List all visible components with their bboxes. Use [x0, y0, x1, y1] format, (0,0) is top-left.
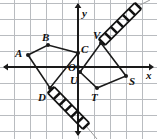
vertex-dot-a: [26, 53, 30, 57]
hatch-band-lower-left-tail: [86, 126, 97, 139]
coordinate-plane-figure: ABCDOUVSTxy: [0, 0, 157, 139]
label-d: D: [38, 92, 46, 103]
vertex-dot-c: [76, 51, 80, 55]
figure-canvas: [0, 0, 157, 139]
label-u: U: [70, 75, 78, 86]
x-axis-arrow-left: [3, 64, 8, 71]
label-y: y: [82, 8, 87, 19]
label-s: S: [129, 76, 135, 87]
label-b: B: [42, 32, 49, 43]
vertex-dot-t: [95, 86, 99, 90]
vertex-dot-origin: [76, 65, 80, 69]
hatch-band-upper-right-stripe: [117, 21, 123, 27]
label-o: O: [68, 62, 76, 73]
label-c: C: [81, 44, 88, 55]
vertex-dot-b: [46, 43, 50, 47]
hatch-band-upper-right-stripe: [111, 27, 117, 33]
label-t: T: [91, 92, 98, 103]
vertex-dot-s: [124, 74, 128, 78]
hatch-band-upper-right-stripe: [129, 9, 135, 15]
label-a: A: [15, 48, 22, 59]
hatch-band-lower-left-stripe: [71, 111, 77, 117]
axes: [3, 3, 154, 136]
y-axis-arrow-down: [75, 131, 82, 136]
label-x: x: [146, 70, 152, 81]
vertex-dot-d: [48, 86, 52, 90]
vertex-dot-v: [99, 41, 103, 45]
hatched-bands: [48, 0, 150, 139]
label-v: V: [93, 30, 100, 41]
vertex-dot-u: [78, 70, 82, 74]
hatch-band-lower-left-stripe: [65, 105, 71, 111]
hatch-band-lower-left-stripe: [54, 93, 60, 99]
